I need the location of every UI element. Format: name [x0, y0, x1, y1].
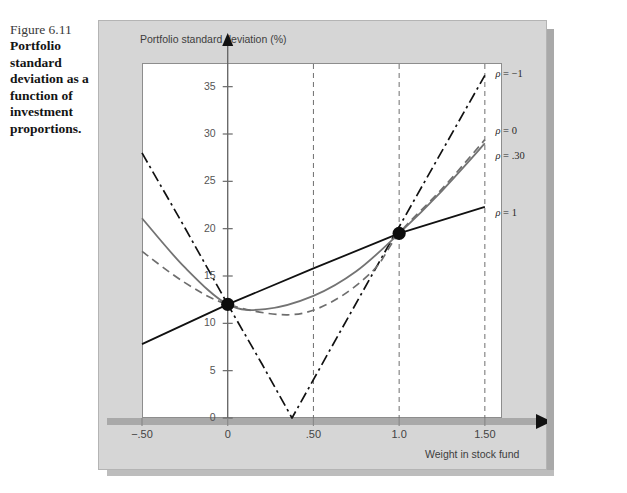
y-tick-label-30: 30	[192, 127, 216, 139]
series-annotation-0: ρ = −1	[495, 68, 522, 79]
data-point-stock-fund-point[interactable]	[393, 227, 406, 240]
x-tick-label--0.5: −.50	[120, 428, 164, 440]
x-tick-label-1: 1.0	[377, 428, 421, 440]
y-tick-label-15: 15	[192, 269, 216, 281]
figure-number: Figure 6.11	[10, 22, 102, 38]
series-annotation-1: ρ = 0	[495, 125, 516, 136]
chart-svg	[98, 20, 547, 470]
y-tick-label-0: 0	[192, 411, 216, 423]
x-tick-label-0: 0	[206, 428, 250, 440]
data-point-bond-fund-point[interactable]	[221, 298, 234, 311]
y-tick-label-5: 5	[192, 364, 216, 376]
panel-shadow-bottom	[107, 470, 554, 476]
y-tick-label-10: 10	[192, 316, 216, 328]
series-annotation-2: ρ = .30	[495, 150, 524, 161]
y-tick-label-35: 35	[192, 80, 216, 92]
y-tick-label-20: 20	[192, 222, 216, 234]
figure-caption: Figure 6.11 Portfolio standard deviation…	[10, 22, 102, 138]
x-tick-label-1.5: 1.50	[463, 428, 507, 440]
x-axis-arrowhead	[536, 414, 547, 429]
y-tick-label-25: 25	[192, 174, 216, 186]
series-annotation-3: ρ = 1	[495, 207, 516, 218]
figure-caption-text: Portfolio standard deviation as a functi…	[10, 38, 102, 138]
y-axis-arrowhead	[222, 33, 233, 46]
x-tick-label-0.5: .50	[291, 428, 335, 440]
panel-shadow-right	[547, 29, 554, 470]
